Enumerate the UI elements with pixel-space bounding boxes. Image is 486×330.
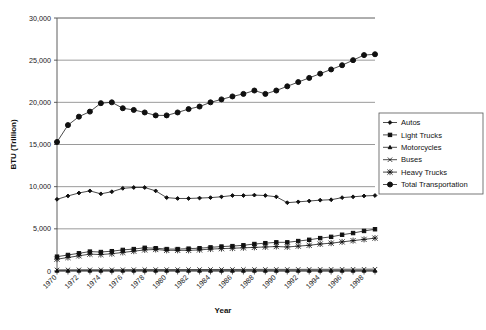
series-heavy-trucks [54, 235, 378, 262]
marker-point [252, 88, 257, 93]
legend-label: Total Transportation [401, 180, 468, 189]
marker-point [197, 104, 202, 109]
marker-point [306, 242, 312, 248]
marker-point [218, 246, 224, 252]
x-tick-label: 1980 [150, 273, 168, 291]
marker-point [132, 186, 136, 190]
marker-point [296, 200, 300, 204]
x-tick-label: 1984 [194, 273, 212, 291]
marker-point [275, 241, 278, 244]
marker-point [131, 107, 136, 112]
marker-point [361, 236, 367, 242]
x-tick-label: 1978 [128, 273, 146, 291]
marker-point [388, 133, 391, 136]
marker-point [77, 191, 81, 195]
marker-point [231, 194, 235, 198]
y-tick-label: 5,000 [33, 224, 51, 233]
x-tick-label: 1992 [282, 273, 300, 291]
marker-point [131, 248, 137, 254]
marker-point [186, 247, 192, 253]
series-autos [55, 186, 377, 205]
x-tick-label: 1982 [172, 273, 190, 291]
marker-point [240, 245, 246, 251]
marker-point [76, 253, 82, 259]
marker-point [340, 196, 344, 200]
marker-point [350, 238, 356, 244]
marker-point [175, 247, 181, 253]
marker-point [362, 53, 367, 58]
marker-point [273, 244, 279, 250]
marker-point [98, 252, 104, 258]
marker-point [318, 71, 323, 76]
marker-point [263, 91, 268, 96]
marker-point [286, 241, 289, 244]
marker-point [153, 113, 158, 118]
marker-point [55, 197, 59, 201]
marker-point [230, 94, 235, 99]
series-line [57, 188, 375, 203]
legend-label: Light Trucks [401, 131, 442, 140]
chart-container: 05,00010,00015,00020,00025,00030,0001970… [0, 0, 486, 330]
legend-label: Autos [401, 118, 421, 127]
marker-point [296, 80, 301, 85]
marker-point [285, 201, 289, 205]
marker-point [176, 197, 180, 201]
marker-point [142, 247, 148, 253]
marker-point [329, 235, 332, 238]
marker-point [154, 189, 158, 193]
marker-point [120, 106, 125, 111]
series-line [57, 229, 375, 256]
y-tick-label: 30,000 [29, 14, 51, 23]
marker-point [208, 246, 214, 252]
x-tick-label: 1996 [326, 273, 344, 291]
legend-label: Heavy Trucks [401, 168, 447, 177]
line-chart: 05,00010,00015,00020,00025,00030,0001970… [0, 0, 486, 330]
marker-point [295, 243, 301, 249]
marker-point [153, 246, 159, 252]
marker-point [307, 75, 312, 80]
marker-point [87, 109, 92, 114]
marker-point [164, 247, 170, 253]
marker-point [143, 186, 147, 190]
marker-point [284, 244, 290, 250]
marker-point [229, 245, 235, 251]
marker-point [251, 244, 257, 250]
marker-point [219, 97, 224, 102]
marker-point [220, 195, 224, 199]
marker-point [164, 113, 169, 118]
marker-point [262, 244, 268, 250]
marker-point [142, 110, 147, 115]
y-axis-title: BTU (Trillion) [9, 119, 18, 170]
legend: AutosLight TrucksMotorcyclesBusesHeavy T… [379, 113, 483, 194]
marker-point [98, 101, 103, 106]
marker-point [297, 239, 300, 242]
marker-point [362, 194, 366, 198]
marker-point [274, 88, 279, 93]
marker-point [387, 169, 393, 175]
marker-point [209, 196, 213, 200]
marker-point [99, 192, 103, 196]
marker-point [263, 194, 267, 198]
marker-point [340, 63, 345, 68]
y-tick-label: 15,000 [29, 140, 51, 149]
marker-point [318, 236, 321, 239]
marker-point [66, 194, 70, 198]
marker-point [351, 195, 355, 199]
marker-point [187, 197, 191, 201]
marker-point [88, 189, 92, 193]
x-tick-label: 1970 [41, 273, 59, 291]
marker-point [373, 194, 377, 198]
marker-point [242, 194, 246, 198]
series-line [57, 54, 375, 142]
marker-point [252, 193, 256, 197]
series-line [57, 238, 375, 259]
marker-point [109, 251, 115, 257]
marker-point [197, 247, 203, 253]
legend-label: Motorcycles [401, 143, 442, 152]
marker-point [120, 249, 126, 255]
marker-point [65, 255, 71, 261]
marker-point [372, 235, 378, 241]
x-tick-label: 1974 [85, 273, 103, 291]
marker-point [274, 195, 278, 199]
marker-point [165, 196, 169, 200]
